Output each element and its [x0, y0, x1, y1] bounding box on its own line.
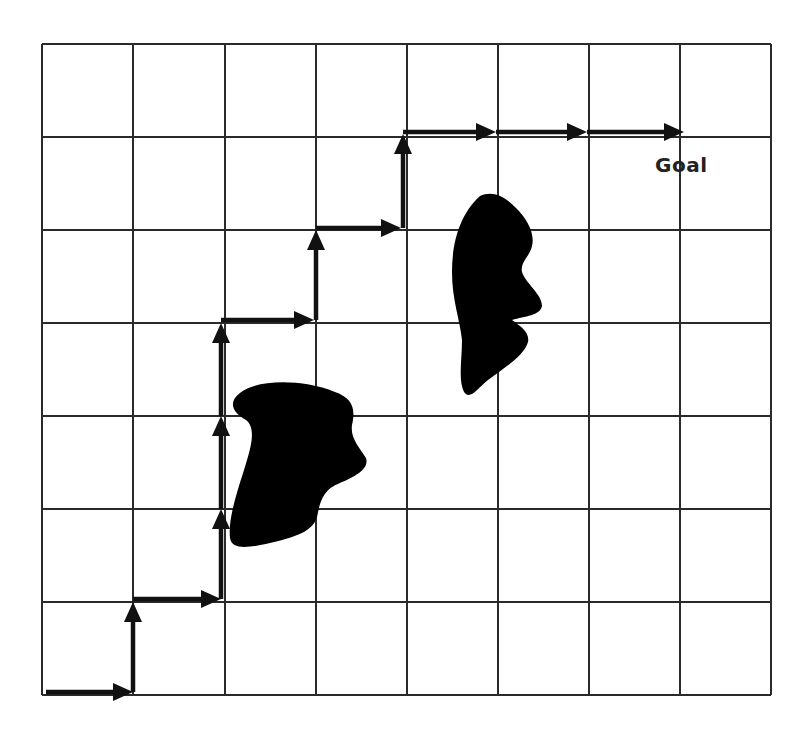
arrowhead-icon	[212, 416, 230, 436]
path-arrow-right	[221, 311, 314, 329]
path-arrow-up	[212, 509, 230, 599]
arrowhead-icon	[476, 123, 496, 141]
arrowhead-icon	[212, 509, 230, 529]
path-arrow-right	[46, 683, 133, 701]
arrowhead-icon	[567, 123, 587, 141]
path-planning-diagram	[0, 0, 810, 735]
arrowhead-icon	[113, 683, 133, 701]
path-arrow-up	[394, 134, 412, 228]
path-arrow-right	[133, 590, 221, 608]
path-arrow-right	[496, 123, 587, 141]
obstacle-upper-right	[452, 194, 542, 395]
path-arrow-up	[212, 323, 230, 416]
path-arrow-up	[124, 602, 142, 692]
goal-label: Goal	[655, 154, 708, 176]
arrowhead-icon	[124, 602, 142, 622]
arrowhead-icon	[381, 219, 401, 237]
arrowhead-icon	[212, 323, 230, 343]
path-arrow-right	[403, 123, 496, 141]
path-arrow-right	[316, 219, 401, 237]
path-arrow-up	[307, 230, 325, 320]
obstacle-lower-left	[230, 382, 367, 547]
path-arrow-up	[212, 416, 230, 509]
arrowhead-icon	[294, 311, 314, 329]
path-arrow-right	[587, 123, 684, 141]
arrowhead-icon	[201, 590, 221, 608]
arrowhead-icon	[307, 230, 325, 250]
obstacles	[230, 194, 542, 547]
